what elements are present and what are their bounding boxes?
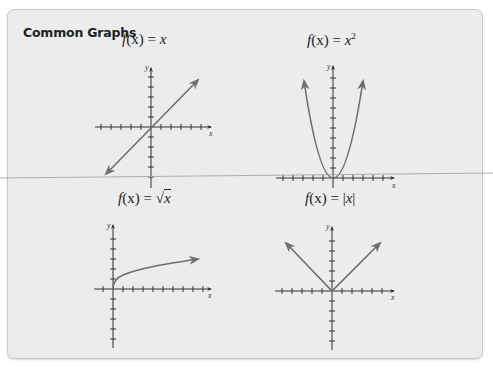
graphs-canvas: x y x y x y [0,0,493,372]
svg-text:y: y [144,63,149,72]
curve-abs [286,243,380,291]
svg-text:x: x [391,181,396,190]
svg-text:y: y [326,62,331,71]
graph-abs: x y [275,222,395,350]
svg-text:y: y [106,221,111,230]
graph-sqrt: x y [94,221,212,348]
curve-sqrt [113,259,198,289]
page-divider-line [0,173,493,178]
svg-text:y: y [325,222,330,231]
graph-identity: x y [95,63,213,188]
graph-square: x y [276,62,396,190]
svg-text:x: x [207,291,212,300]
svg-text:x: x [208,129,213,138]
svg-text:x: x [390,293,395,302]
